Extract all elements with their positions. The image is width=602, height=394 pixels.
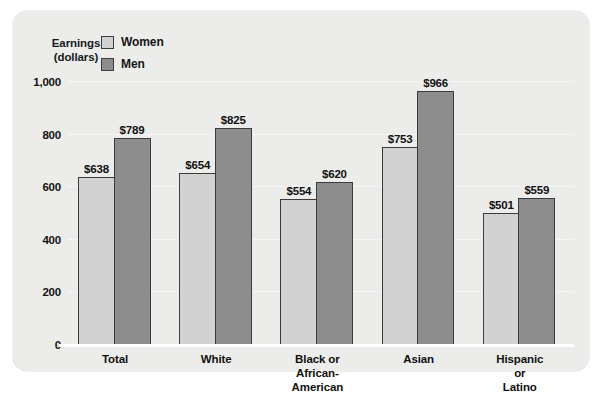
- bar-value-label: $620: [322, 168, 347, 180]
- bar-women[interactable]: $654: [179, 173, 216, 345]
- legend-label-women: Women: [121, 35, 164, 49]
- bar-value-label: $554: [286, 185, 311, 197]
- bar-men[interactable]: $966: [417, 91, 454, 345]
- bar-value-label: $966: [423, 77, 448, 89]
- earnings-bar-chart: Earnings (dollars) Women Men 02004006008…: [13, 11, 589, 371]
- category-label: White: [201, 352, 232, 366]
- y-axis-tick-label: 800: [42, 129, 61, 141]
- category-label: Asian: [403, 352, 434, 366]
- bar-group: $501$559Hispanic or Latino: [483, 82, 557, 345]
- y-axis-tick-label: 600: [42, 181, 61, 193]
- x-axis-baseline: [59, 344, 574, 347]
- bar-value-label: $825: [221, 114, 246, 126]
- bar-women[interactable]: $501: [483, 213, 520, 345]
- bar-value-label: $501: [489, 199, 514, 211]
- legend-swatch-women-icon: [101, 36, 114, 49]
- bar-value-label: $638: [84, 163, 109, 175]
- legend-label-men: Men: [121, 57, 145, 71]
- bar-value-label: $654: [185, 159, 210, 171]
- bar-men[interactable]: $620: [316, 182, 353, 345]
- legend-swatch-men-icon: [101, 58, 114, 71]
- bar-value-label: $753: [388, 133, 413, 145]
- bar-group: $654$825White: [179, 82, 253, 345]
- legend-item-men: Men: [101, 53, 164, 75]
- bar-group: $638$789Total: [78, 82, 152, 345]
- bar-women[interactable]: $753: [382, 147, 419, 345]
- y-axis-tick-label: 400: [42, 234, 61, 246]
- plot-area: 02004006008001,000 $638$789Total$654$825…: [68, 82, 574, 345]
- y-axis-tick-label: 1,000: [33, 76, 61, 88]
- bar-group: $753$966Asian: [382, 82, 456, 345]
- legend-item-women: Women: [101, 31, 164, 53]
- category-label: Hispanic or Latino: [496, 352, 543, 394]
- bar-group: $554$620Black or African-American: [280, 82, 354, 345]
- y-axis-tick-label: 200: [42, 286, 61, 298]
- bar-men[interactable]: $825: [215, 128, 252, 345]
- bar-women[interactable]: $638: [78, 177, 115, 345]
- bar-value-label: $559: [524, 184, 549, 196]
- category-label: Total: [102, 352, 128, 366]
- bar-men[interactable]: $789: [114, 138, 151, 346]
- category-label: Black or African-American: [292, 352, 344, 394]
- bar-men[interactable]: $559: [518, 198, 555, 345]
- chart-legend: Women Men: [101, 31, 164, 75]
- bar-groups: $638$789Total$654$825White$554$620Black …: [68, 82, 574, 345]
- bar-women[interactable]: $554: [280, 199, 317, 345]
- bar-value-label: $789: [120, 124, 145, 136]
